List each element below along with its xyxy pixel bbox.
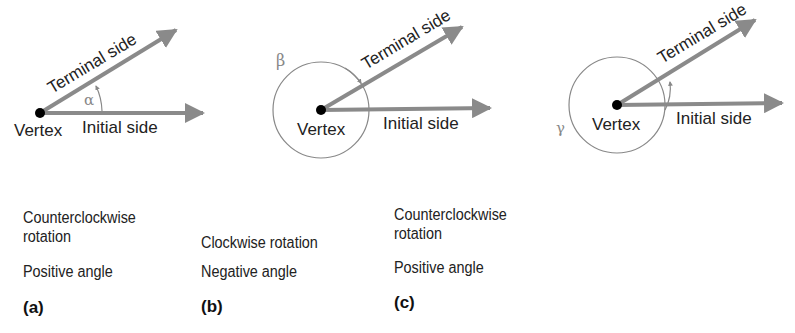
rotation-line-1: Counterclockwise (394, 205, 507, 224)
angle-symbol: β (276, 51, 285, 70)
vertex-label: Vertex (14, 121, 63, 140)
initial-side-label: Initial side (82, 118, 158, 137)
rotation-line-2: rotation (23, 227, 136, 246)
panel-a-figure: α Vertex Initial side Terminal side (14, 30, 203, 140)
caption-b-rotation: Clockwise rotation (201, 233, 318, 252)
angle-symbol: γ (556, 119, 565, 137)
caption-c-rotation: Counterclockwise rotation (394, 205, 507, 243)
panel-label-c: (c) (394, 293, 415, 313)
vertex-dot (612, 100, 622, 110)
vertex-dot (316, 105, 326, 115)
caption-b-sign: Negative angle (201, 262, 297, 281)
initial-side-ray (321, 108, 490, 110)
angle-diagrams: α Vertex Initial side Terminal side β Ve… (0, 0, 795, 333)
panel-c-figure: γ Vertex Initial side Terminal side (556, 0, 782, 153)
initial-side-label: Initial side (676, 109, 752, 128)
initial-side-label: Initial side (383, 114, 459, 133)
initial-side-ray (617, 103, 782, 105)
vertex-label: Vertex (592, 115, 641, 134)
angle-symbol: α (84, 91, 94, 109)
caption-a-sign: Positive angle (23, 262, 113, 281)
rotation-line-1: Counterclockwise (23, 208, 136, 227)
vertex-dot (35, 108, 45, 118)
caption-a-rotation: Counterclockwise rotation (23, 208, 136, 246)
rotation-line-2: rotation (394, 224, 507, 243)
angle-arc (96, 86, 102, 111)
panel-b-figure: β Vertex Initial side Terminal side (273, 6, 490, 158)
caption-c-sign: Positive angle (394, 258, 484, 277)
panel-label-b: (b) (201, 297, 223, 317)
panel-label-a: (a) (23, 298, 44, 318)
vertex-label: Vertex (297, 120, 346, 139)
terminal-side-label: Terminal side (44, 30, 140, 98)
